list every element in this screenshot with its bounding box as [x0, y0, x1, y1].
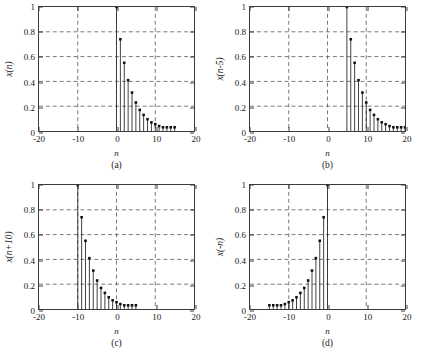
stem-marker — [400, 126, 403, 129]
panel-b-ytick-mark — [401, 7, 405, 8]
panel-b-xtick-mark — [289, 7, 290, 11]
stem-marker — [349, 38, 352, 41]
stem-marker — [84, 240, 87, 243]
stem-marker — [396, 126, 399, 129]
stem-marker — [291, 299, 294, 302]
stem-marker — [127, 79, 130, 82]
panel-c-xtick-mark — [39, 305, 40, 309]
stem-marker — [272, 304, 275, 307]
panel-d-ytick-label: 0.6 — [235, 231, 246, 240]
stem-marker — [127, 304, 130, 307]
panel-d-xtick-mark — [289, 305, 290, 309]
panel-a-xtick-label: -20 — [33, 134, 45, 144]
panel-a-xtick-mark — [78, 127, 79, 131]
stem-marker — [142, 114, 145, 117]
panel-b-ytick-label: 0.4 — [235, 78, 246, 87]
panel-d-ytick-mark — [401, 210, 405, 211]
stem-marker — [131, 91, 134, 94]
panel-d-caption: (d) — [249, 338, 406, 348]
stem-marker — [369, 109, 372, 112]
panel-a-ytick-label: 0.2 — [24, 103, 35, 112]
panel-d-ytick-label: 0.8 — [235, 206, 246, 215]
stem-marker — [318, 240, 321, 243]
panel-b-plot-area — [250, 7, 405, 131]
stem-marker — [268, 304, 271, 307]
panel-d-xtick-mark — [250, 185, 251, 189]
panel-a-ytick-mark — [39, 82, 43, 83]
panel-d-ytick-mark — [250, 185, 254, 186]
stem-marker — [115, 301, 118, 304]
panel-a-ytick-mark — [39, 107, 43, 108]
panel-b-xtick-label: 20 — [403, 134, 412, 144]
stem-marker — [135, 304, 138, 307]
stem-marker — [119, 303, 122, 306]
panel-d-xtick-mark — [250, 305, 251, 309]
stem-marker — [169, 126, 172, 129]
panel-b-xtick-mark — [407, 127, 408, 131]
panel-b-ytick-mark — [401, 57, 405, 58]
panel-c-ytick-label: 0.8 — [24, 206, 35, 215]
panel-b-xtick-label: 10 — [363, 134, 372, 144]
panel-b-ytick-mark — [250, 7, 254, 8]
panel-b-ytick-mark — [250, 82, 254, 83]
panel-b-xtick-mark — [367, 7, 368, 11]
panel-a-xtick-mark — [39, 7, 40, 11]
panel-c-ytick-mark — [39, 260, 43, 261]
panel-b-xtick-mark — [250, 127, 251, 131]
panel-b-xtick-mark — [367, 127, 368, 131]
panel-a-xlabel: n — [38, 148, 195, 158]
panel-b-ytick-mark — [250, 107, 254, 108]
stem-marker — [353, 62, 356, 65]
panel-c-ytick-mark — [190, 235, 194, 236]
panel-b-xtick-label: -20 — [244, 134, 256, 144]
panel-b-ylabel-text: x(n-5) — [215, 57, 225, 80]
panel-c-plot-frame: 00.20.40.60.81-20-1001020 — [38, 184, 195, 310]
panel-c-ylabel: x(n+10) — [2, 184, 16, 310]
stem-marker — [150, 121, 153, 124]
panel-c-xtick-mark — [196, 305, 197, 309]
stem-marker — [346, 7, 349, 8]
stem-marker — [154, 123, 157, 126]
panel-c-ytick-mark — [190, 210, 194, 211]
panel-c-ylabel-text: x(n+10) — [4, 231, 14, 262]
panel-a: x(n) 00.20.40.60.81-20-1001020 n (a) — [0, 0, 211, 178]
stem-marker — [311, 269, 314, 272]
panel-b-xtick-mark — [289, 127, 290, 131]
panel-c-xtick-mark — [117, 185, 118, 189]
stem-marker — [88, 257, 91, 260]
panel-d-xtick-label: -20 — [244, 312, 256, 322]
panel-d-svg — [250, 185, 405, 309]
stem-marker — [96, 279, 99, 282]
stem-marker — [384, 123, 387, 126]
panel-b-ytick-label: 1 — [242, 3, 247, 12]
stem-marker — [162, 126, 165, 129]
stem-marker — [303, 287, 306, 290]
panel-c-ytick-label: 0.4 — [24, 256, 35, 265]
panel-c-caption: (c) — [38, 338, 195, 348]
stem-marker — [361, 91, 364, 94]
panel-b-ytick-mark — [250, 57, 254, 58]
panel-c-xtick-label: -10 — [72, 312, 84, 322]
panel-d-xtick-mark — [328, 305, 329, 309]
panel-c-xtick-mark — [196, 185, 197, 189]
panel-d-ytick-mark — [250, 260, 254, 261]
panel-c-ytick-mark — [39, 185, 43, 186]
panel-c-svg — [39, 185, 194, 309]
stem-marker — [373, 114, 376, 117]
panel-a-ytick-mark — [190, 107, 194, 108]
stem-marker — [135, 101, 138, 104]
panel-b-ytick-mark — [401, 82, 405, 83]
panel-c-ytick-mark — [190, 185, 194, 186]
panel-a-xtick-mark — [156, 7, 157, 11]
panel-a-xtick-mark — [117, 7, 118, 11]
panel-a-ytick-label: 0.8 — [24, 28, 35, 37]
panel-d-ytick-label: 0.4 — [235, 256, 246, 265]
panel-d-ylabel-text: x(-n) — [215, 238, 225, 256]
panel-b-xtick-mark — [407, 7, 408, 11]
stem-marker — [131, 304, 134, 307]
panel-c-ytick-mark — [190, 260, 194, 261]
panel-b-plot-frame: 00.20.40.60.81-20-1001020 — [249, 6, 406, 132]
stem-marker — [392, 126, 395, 129]
panel-c: x(n+10) 00.20.40.60.81-20-1001020 n (c) — [0, 178, 211, 356]
panel-d-xtick-mark — [367, 305, 368, 309]
